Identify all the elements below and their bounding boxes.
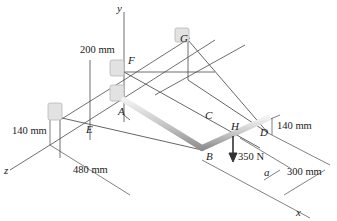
point-A-label: A: [118, 106, 125, 117]
dim-200-label: 200 mm: [80, 45, 115, 56]
point-F-label: F: [128, 55, 135, 66]
point-G-label: G: [180, 33, 188, 44]
point-H-label: H: [231, 121, 239, 132]
frame-diagram-svg: [0, 0, 337, 221]
point-D-label: D: [260, 127, 268, 138]
dim-300-label: 300 mm: [287, 167, 322, 178]
dim-140-left-label: 140 mm: [12, 126, 47, 137]
z-axis-label: z: [4, 165, 8, 176]
dim-480-label: 480 mm: [73, 165, 108, 176]
point-C-label: C: [205, 110, 212, 121]
load-label: 350 N: [238, 152, 264, 163]
point-B-label: B: [206, 151, 213, 162]
x-axis-label: x: [296, 207, 301, 218]
cable-GD: [188, 40, 268, 133]
bracket-F: [110, 60, 124, 76]
dim-140-top-label: 140 mm: [277, 121, 312, 132]
point-E-label: E: [86, 124, 93, 135]
dim-a-label: a: [264, 167, 270, 178]
arrow-head-icon: [229, 153, 237, 162]
y-axis-label: y: [117, 3, 122, 14]
z-axis-line: [10, 145, 50, 170]
bracket-E: [48, 103, 62, 120]
load-arrow: [229, 136, 237, 162]
